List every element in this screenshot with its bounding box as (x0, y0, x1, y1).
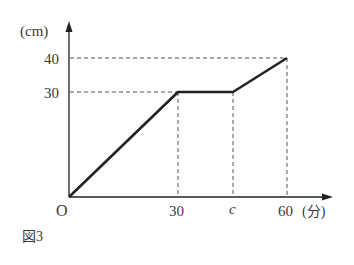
y-unit-label: (cm) (20, 23, 48, 40)
x-unit-label: (分) (302, 204, 326, 220)
y-tick-40: 40 (44, 51, 59, 67)
origin-label: O (56, 202, 68, 219)
x-tick-30: 30 (169, 203, 184, 219)
chart: (cm) 40 30 O 30 c 60 (分) 図3 (0, 0, 354, 265)
figure-label: 図3 (22, 229, 43, 244)
y-tick-30: 30 (44, 85, 59, 101)
y-axis-arrow-icon (66, 21, 73, 32)
x-axis-arrow-icon (322, 194, 333, 201)
x-tick-60: 60 (278, 203, 293, 219)
x-tick-c: c (229, 201, 236, 217)
